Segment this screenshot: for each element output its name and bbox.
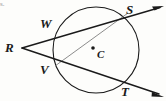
- point-label-s: S: [126, 3, 133, 16]
- circle-outline: [53, 7, 139, 93]
- point-label-c: C: [97, 49, 104, 60]
- arrowhead-lower-icon: [152, 92, 165, 97]
- point-label-w: W: [40, 17, 52, 30]
- geometry-figure: s. R W S V T C: [0, 0, 166, 101]
- point-label-t: T: [121, 85, 129, 98]
- point-label-v: V: [40, 63, 49, 76]
- point-label-r: R: [5, 41, 14, 54]
- center-dot-icon: [91, 46, 95, 50]
- chord-vs: [55, 13, 128, 66]
- figure-canvas: [0, 0, 166, 101]
